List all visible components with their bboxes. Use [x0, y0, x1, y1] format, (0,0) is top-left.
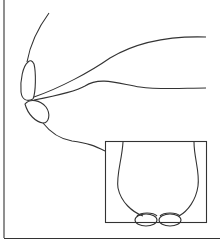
toe-pad-upper: [21, 61, 36, 101]
sole-contour: [43, 123, 105, 151]
toe-pad-lower: [25, 100, 49, 123]
toe-lower-line: [34, 81, 206, 100]
inset-right-contour: [179, 142, 198, 216]
front-view-inset: [106, 142, 207, 223]
inset-toe-right: [159, 214, 181, 226]
foot-upper-contour: [27, 13, 49, 62]
foot-illustration: [0, 0, 220, 241]
inset-left-contour: [118, 142, 143, 216]
diagram-canvas: [0, 0, 220, 241]
inset-toe-left: [135, 214, 157, 226]
